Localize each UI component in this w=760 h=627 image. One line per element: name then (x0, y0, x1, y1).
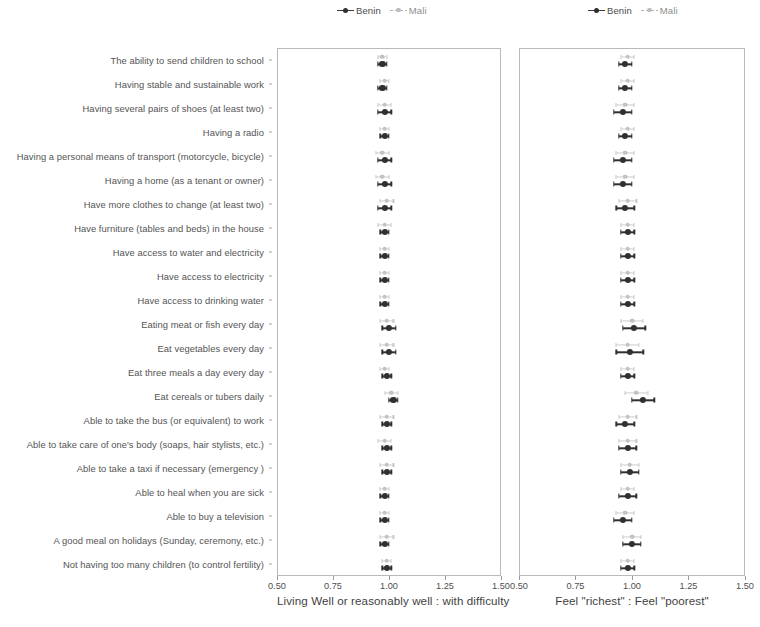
confidence-interval-cap (634, 374, 635, 379)
confidence-interval-cap (382, 326, 383, 331)
estimate-marker (627, 463, 632, 468)
confidence-interval-cap (620, 566, 621, 571)
confidence-interval-cap (620, 247, 621, 251)
x-axis-tick-label: 1.25 (436, 581, 454, 591)
category-label: Having stable and sustainable work (115, 79, 264, 90)
confidence-interval-cap (391, 470, 392, 475)
estimate-marker (623, 511, 628, 516)
confidence-interval-cap (618, 62, 619, 67)
benin-marker-icon (588, 7, 605, 15)
confidence-interval-cap (622, 542, 623, 547)
confidence-interval-cap (620, 559, 621, 563)
x-axis-tick-label: 0.50 (510, 581, 528, 591)
confidence-interval-cap (386, 62, 387, 67)
mali-marker-icon (641, 7, 658, 15)
confidence-interval-cap (631, 518, 632, 523)
category-label: The ability to send children to school (110, 55, 264, 66)
category-tick (269, 84, 273, 85)
confidence-interval-cap (380, 79, 381, 83)
confidence-interval-cap (636, 494, 637, 499)
confidence-interval-cap (620, 470, 621, 475)
plot-area-right (520, 49, 744, 575)
panel-feel-richest (519, 48, 745, 576)
confidence-interval-cap (638, 463, 639, 467)
confidence-interval-cap (620, 230, 621, 235)
estimate-marker (382, 367, 387, 372)
legend-label-mali: Mali (409, 5, 427, 16)
legend-right-panel: Benin Mali (588, 5, 678, 16)
estimate-marker (623, 151, 628, 156)
estimate-marker (380, 151, 385, 156)
confidence-interval-cap (380, 487, 381, 491)
estimate-marker (386, 349, 392, 355)
confidence-interval-cap (388, 518, 389, 523)
confidence-interval-cap (620, 55, 621, 59)
estimate-marker (624, 301, 630, 307)
confidence-interval-cap (620, 487, 621, 491)
estimate-marker (386, 325, 392, 331)
confidence-interval-cap (634, 511, 635, 515)
estimate-marker (620, 109, 626, 115)
confidence-interval-cap (377, 158, 378, 163)
estimate-marker (625, 79, 630, 84)
confidence-interval-cap (620, 295, 621, 299)
confidence-interval-cap (618, 134, 619, 139)
estimate-marker (382, 487, 387, 492)
confidence-interval-cap (616, 151, 617, 155)
confidence-interval-cap (388, 511, 389, 515)
confidence-interval-cap (380, 127, 381, 131)
estimate-marker (630, 535, 635, 540)
estimate-marker (384, 559, 389, 564)
confidence-interval-cap (620, 319, 621, 323)
confidence-interval-cap (654, 398, 655, 403)
confidence-interval-cap (634, 206, 635, 211)
confidence-interval-cap (380, 415, 381, 419)
estimate-marker (625, 487, 630, 492)
confidence-interval-cap (388, 367, 389, 371)
category-label: Eat cereals or tubers daily (154, 391, 264, 402)
x-axis-tick-label: 1.00 (380, 581, 398, 591)
estimate-marker (381, 133, 387, 139)
confidence-interval-cap (388, 134, 389, 139)
confidence-interval-cap (393, 415, 394, 419)
x-axis-tick (575, 576, 576, 580)
estimate-marker (627, 349, 633, 355)
confidence-interval-cap (640, 535, 641, 539)
confidence-interval-cap (391, 566, 392, 571)
estimate-marker (624, 373, 630, 379)
confidence-interval-cap (395, 350, 396, 355)
estimate-marker (624, 565, 630, 571)
confidence-interval-cap (380, 511, 381, 515)
x-axis-tick (501, 576, 502, 580)
estimate-marker (384, 343, 389, 348)
estimate-marker (384, 445, 390, 451)
estimate-marker (381, 253, 387, 259)
estimate-marker (624, 229, 630, 235)
confidence-interval-cap (631, 62, 632, 67)
confidence-interval-cap (618, 494, 619, 499)
category-tick (269, 468, 273, 469)
category-label: Eating meat or fish every day (141, 319, 264, 330)
category-label: Have access to drinking water (137, 295, 264, 306)
confidence-interval-cap (618, 439, 619, 443)
estimate-marker (625, 559, 630, 564)
estimate-marker (381, 541, 387, 547)
estimate-marker (390, 397, 396, 403)
confidence-interval-cap (634, 302, 635, 307)
estimate-marker (381, 517, 387, 523)
category-tick (269, 204, 273, 205)
x-axis-tick (445, 576, 446, 580)
benin-marker-icon (337, 7, 354, 15)
confidence-interval-cap (634, 247, 635, 251)
category-tick (269, 492, 273, 493)
confidence-interval-cap (380, 271, 381, 275)
estimate-marker (624, 445, 630, 451)
x-axis-tick-label: 1.00 (623, 581, 641, 591)
confidence-interval-cap (616, 422, 617, 427)
estimate-marker (381, 181, 387, 187)
estimate-marker (381, 493, 387, 499)
confidence-interval-cap (388, 151, 389, 155)
confidence-interval-cap (380, 319, 381, 323)
x-axis-tick-label: 0.75 (567, 581, 585, 591)
estimate-marker (634, 391, 639, 396)
